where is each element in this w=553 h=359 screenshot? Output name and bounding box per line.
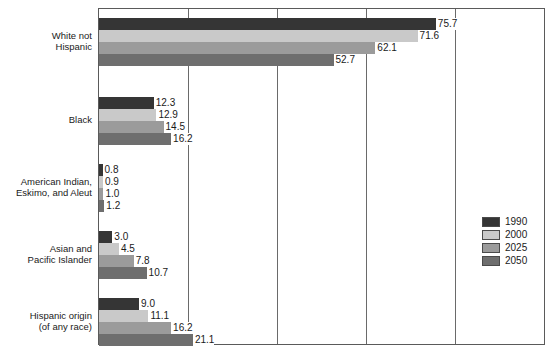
- bar-value-label: 9.0: [139, 298, 155, 310]
- bar: [99, 54, 334, 66]
- legend-label: 1990: [505, 216, 527, 228]
- bar: [99, 322, 171, 334]
- legend-item[interactable]: 2025: [482, 242, 540, 254]
- category-label: White notHispanic: [0, 30, 92, 53]
- bar: [99, 30, 418, 42]
- category-label-line: American Indian,: [0, 176, 92, 188]
- category-label: Asian andPacific Islander: [0, 243, 92, 266]
- legend-label: 2000: [505, 229, 527, 241]
- bar: [99, 18, 436, 30]
- bar: [99, 133, 171, 145]
- bar-value-label: 21.1: [193, 334, 214, 346]
- bar-value-label: 0.9: [103, 176, 119, 188]
- legend-item[interactable]: 1990: [482, 216, 540, 228]
- bar-value-label: 14.5: [164, 121, 185, 133]
- bar: [99, 231, 112, 243]
- category-label-line: (of any race): [0, 321, 92, 333]
- gridline: [366, 9, 367, 344]
- bar-chart: 75.771.662.152.712.312.914.516.20.80.91.…: [0, 0, 553, 359]
- category-label-line: Hispanic origin: [0, 310, 92, 322]
- bar-value-label: 75.7: [436, 18, 457, 30]
- legend-swatch: [482, 230, 500, 240]
- bar-value-label: 1.2: [104, 200, 120, 212]
- chart-legend: 1990200020252050: [482, 216, 540, 268]
- legend-label: 2050: [505, 255, 527, 267]
- bar-value-label: 12.3: [154, 97, 175, 109]
- bar: [99, 334, 193, 346]
- bar: [99, 42, 375, 54]
- bar-value-label: 7.8: [134, 255, 150, 267]
- bar: [99, 243, 119, 255]
- bar-value-label: 0.8: [103, 164, 119, 176]
- bar-value-label: 16.2: [171, 322, 192, 334]
- bar-value-label: 11.1: [148, 310, 169, 322]
- bar-value-label: 52.7: [334, 54, 355, 66]
- bar-value-label: 16.2: [171, 133, 192, 145]
- bar-value-label: 71.6: [418, 30, 439, 42]
- bar-value-label: 3.0: [112, 231, 128, 243]
- gridline: [455, 9, 456, 344]
- bar-value-label: 4.5: [119, 243, 135, 255]
- category-label: Hispanic origin(of any race): [0, 310, 92, 333]
- legend-swatch: [482, 217, 500, 227]
- legend-item[interactable]: 2050: [482, 255, 540, 267]
- bar: [99, 109, 156, 121]
- category-label: Black: [0, 114, 92, 126]
- bar-value-label: 1.0: [103, 188, 119, 200]
- bar: [99, 310, 148, 322]
- legend-item[interactable]: 2000: [482, 229, 540, 241]
- legend-swatch: [482, 256, 500, 266]
- bar-value-label: 12.9: [156, 109, 177, 121]
- category-label-line: Black: [0, 114, 92, 126]
- category-label-line: Eskimo, and Aleut: [0, 187, 92, 199]
- plot-area: 75.771.662.152.712.312.914.516.20.80.91.…: [98, 8, 545, 345]
- category-label-line: Asian and: [0, 243, 92, 255]
- bar: [99, 267, 147, 279]
- legend-label: 2025: [505, 242, 527, 254]
- category-label: American Indian,Eskimo, and Aleut: [0, 176, 92, 199]
- legend-swatch: [482, 243, 500, 253]
- bar-value-label: 10.7: [147, 267, 168, 279]
- bar: [99, 255, 134, 267]
- category-label-line: Pacific Islander: [0, 254, 92, 266]
- category-label-line: White not: [0, 30, 92, 42]
- bar: [99, 97, 154, 109]
- bar-value-label: 62.1: [375, 42, 396, 54]
- category-label-line: Hispanic: [0, 41, 92, 53]
- bar: [99, 298, 139, 310]
- bar: [99, 121, 164, 133]
